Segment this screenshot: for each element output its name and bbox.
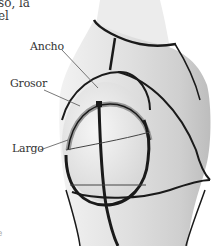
label-largo: Largo [12,142,44,155]
label-grosor: Grosor [10,77,47,90]
corner-mark: e [0,228,2,238]
label-ancho: Ancho [30,40,64,53]
dress-form-illustration [0,0,214,246]
